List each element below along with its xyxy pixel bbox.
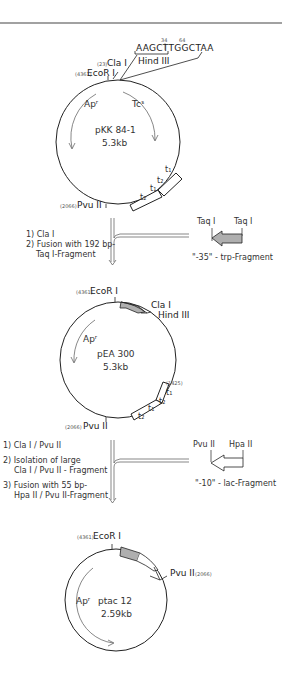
terminator-position: (1425) xyxy=(166,380,183,386)
plasmid-name: pEA 300 xyxy=(97,349,135,359)
plasmid-name: ptac 12 xyxy=(98,596,132,606)
terminator-label: t₂ xyxy=(159,397,165,406)
taqi-left-label: Taq I xyxy=(196,217,215,226)
clai-label: Cla I xyxy=(151,300,171,310)
clai-label: Cla I xyxy=(107,58,127,68)
step1-item: 2) Fusion with 192 bp- xyxy=(26,240,115,249)
trp-fragment-arrow xyxy=(212,228,242,246)
pvuii-label: Pvu II xyxy=(77,200,102,210)
step1-arrow xyxy=(109,218,189,265)
amp-resistance-gene: Apʳ xyxy=(84,99,99,109)
pvuii-position: (2066) xyxy=(65,424,82,430)
terminator-label: t₂ xyxy=(157,176,163,185)
clai-position: (23) xyxy=(97,61,107,67)
step2-item: Cla I / Pvu II - Fragment xyxy=(14,466,107,475)
step1-item: Taq I-Fragment xyxy=(35,250,96,259)
pvuii-label: Pvu II xyxy=(83,421,108,431)
ecori-position: (4361) xyxy=(77,534,94,540)
terminator-label: t₂ xyxy=(140,193,146,202)
plasmid-size: 5.3kb xyxy=(103,362,129,372)
step2-arrow xyxy=(109,440,189,503)
step2-item: 3) Fusion with 55 bp- xyxy=(3,481,87,490)
ecori-label: EcoR I xyxy=(87,68,115,78)
amp-resistance-gene: Apʳ xyxy=(83,334,98,344)
terminator-label: t₁ xyxy=(150,184,156,193)
pvuii-position: (2066) xyxy=(195,571,212,577)
plasmid-size: 2.59kb xyxy=(101,609,132,619)
pvuii-label: Pvu II xyxy=(170,568,195,578)
terminator-label: t₁ xyxy=(148,404,154,413)
pvuii-position: (2066) xyxy=(60,203,77,209)
ecori-label: EcoR I xyxy=(93,531,121,541)
dna-sequence: AAGCTTGGCTAA xyxy=(136,43,214,53)
lac-fragment-arrow xyxy=(211,450,243,471)
taqi-right-label: Taq I xyxy=(233,217,252,226)
terminator-label: t₁ xyxy=(165,165,171,174)
terminator-label: t₁ xyxy=(166,388,172,397)
hindiii-label: Hind III xyxy=(138,56,170,66)
terminator-label: t₂ xyxy=(138,412,144,421)
plasmid-size: 5.3kb xyxy=(102,138,128,148)
tet-resistance-gene: Tcˢ xyxy=(131,99,144,109)
trp-fragment-label: "-35" - trp-Fragment xyxy=(192,253,273,262)
hpaii-right-label: Hpa II xyxy=(229,440,252,449)
hindiii-label: Hind III xyxy=(158,310,190,320)
pvuii-left-label: Pvu II xyxy=(193,440,215,449)
step2-item: Hpa II / Pvu II-Fragment xyxy=(14,491,108,500)
step2-item: 2) Isolation of large xyxy=(3,456,81,465)
step1-item: 1) Cla I xyxy=(26,230,54,239)
ecori-label: EcoR I xyxy=(90,286,118,296)
plasmid-name: pKK 84-1 xyxy=(95,125,136,135)
plasmid-construction-diagram: (4361) EcoR I (23) Cla I 34 64 AAGCTTGGC… xyxy=(0,0,282,676)
amp-resistance-gene: Apʳ xyxy=(76,596,91,606)
lac-fragment-label: "-10" - lac-Fragment xyxy=(195,479,276,488)
step2-item: 1) Cla I / Pvu II xyxy=(3,441,61,450)
